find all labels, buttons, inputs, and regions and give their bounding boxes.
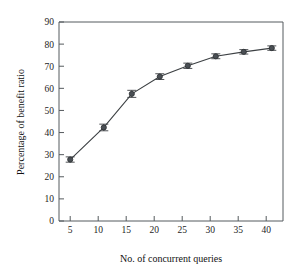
chart-plot-area: 5101520253035400102030405060708090 No. o… bbox=[0, 0, 300, 279]
axis-ticks bbox=[59, 22, 266, 221]
y-tick-label: 20 bbox=[45, 172, 55, 182]
axis-tick-labels: 5101520253035400102030405060708090 bbox=[45, 17, 272, 235]
y-axis-title: Percentage of benefit ratio bbox=[15, 69, 26, 175]
data-point-marker bbox=[129, 91, 134, 96]
y-tick-label: 50 bbox=[45, 106, 55, 116]
x-tick-label: 40 bbox=[261, 225, 271, 235]
x-tick-label: 5 bbox=[68, 225, 73, 235]
data-series-line bbox=[70, 48, 272, 159]
y-tick-label: 70 bbox=[45, 62, 55, 72]
y-tick-label: 90 bbox=[45, 17, 55, 27]
x-tick-label: 25 bbox=[177, 225, 187, 235]
y-tick-label: 40 bbox=[45, 128, 55, 138]
x-tick-label: 35 bbox=[233, 225, 243, 235]
x-axis-title: No. of concurrent queries bbox=[120, 253, 222, 264]
chart-figure: 5101520253035400102030405060708090 No. o… bbox=[0, 0, 300, 279]
error-bars bbox=[66, 46, 277, 162]
data-point-marker bbox=[101, 125, 106, 130]
y-tick-label: 0 bbox=[49, 216, 54, 226]
y-tick-label: 60 bbox=[45, 84, 55, 94]
x-tick-label: 10 bbox=[93, 225, 103, 235]
data-point-marker bbox=[269, 45, 274, 50]
y-tick-label: 80 bbox=[45, 40, 55, 50]
x-tick-label: 20 bbox=[149, 225, 159, 235]
x-tick-label: 15 bbox=[121, 225, 131, 235]
y-tick-label: 30 bbox=[45, 150, 55, 160]
data-point-marker bbox=[157, 74, 162, 79]
data-point-marker bbox=[185, 63, 190, 68]
data-point-marker bbox=[213, 54, 218, 59]
data-point-marker bbox=[68, 157, 73, 162]
data-point-marker bbox=[241, 49, 246, 54]
data-point-markers bbox=[68, 45, 275, 162]
x-tick-label: 30 bbox=[205, 225, 215, 235]
axis-frame bbox=[59, 22, 283, 221]
y-tick-label: 10 bbox=[45, 194, 55, 204]
